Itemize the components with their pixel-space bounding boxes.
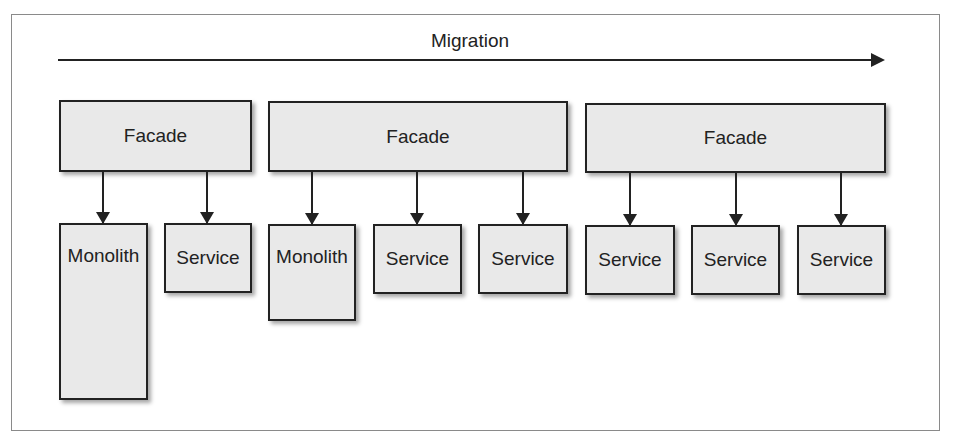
arrow-down-icon	[735, 173, 737, 225]
stage-1-service-1: Service	[164, 223, 252, 293]
component-label: Service	[491, 248, 554, 270]
migration-label: Migration	[380, 30, 560, 52]
component-label: Service	[704, 249, 767, 271]
stage-3-service-3: Service	[797, 225, 886, 295]
diagram-frame	[11, 14, 940, 431]
facade-label: Facade	[124, 125, 187, 147]
stage-1-monolith: Monolith	[59, 223, 148, 400]
component-label: Service	[176, 247, 239, 269]
stage-3-facade: Facade	[585, 103, 886, 173]
stage-1-facade: Facade	[59, 100, 252, 172]
stage-3-service-1: Service	[585, 225, 675, 295]
component-label: Service	[598, 249, 661, 271]
migration-arrow-line	[58, 59, 873, 61]
stage-2-facade: Facade	[268, 101, 568, 172]
arrow-down-icon	[206, 172, 208, 223]
facade-label: Facade	[704, 127, 767, 149]
arrow-down-icon	[840, 173, 842, 225]
migration-arrowhead-icon	[871, 53, 885, 67]
arrow-down-icon	[629, 173, 631, 225]
component-label: Monolith	[276, 226, 348, 268]
component-label: Service	[386, 248, 449, 270]
facade-label: Facade	[386, 126, 449, 148]
stage-2-service-1: Service	[373, 224, 462, 294]
component-label: Service	[810, 249, 873, 271]
arrow-down-icon	[522, 172, 524, 224]
stage-2-monolith: Monolith	[268, 224, 356, 321]
arrow-down-icon	[416, 172, 418, 224]
arrow-down-icon	[102, 172, 104, 223]
stage-2-service-2: Service	[478, 224, 568, 294]
stage-3-service-2: Service	[691, 225, 780, 295]
component-label: Monolith	[68, 225, 140, 267]
arrow-down-icon	[311, 172, 313, 224]
